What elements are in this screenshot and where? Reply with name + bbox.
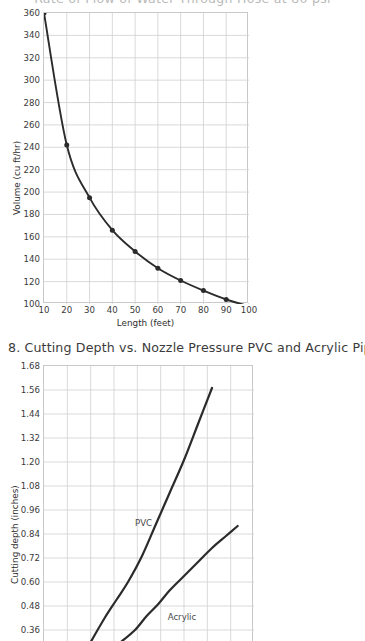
y-tick-label: 360 xyxy=(24,9,40,18)
plot-area-cutting: PVC Acrylic 0.360.480.600.720.840.961.08… xyxy=(43,365,253,641)
y-tick-label: 200 xyxy=(24,188,40,197)
series-label-pvc: PVC xyxy=(135,518,152,528)
y-tick-label: 0.96 xyxy=(21,506,40,515)
y-tick-label: 1.56 xyxy=(21,386,40,395)
y-tick-label: 0.84 xyxy=(21,530,40,539)
y-tick-label: 0.36 xyxy=(21,626,40,635)
series-label-acrylic: Acrylic xyxy=(168,612,197,622)
chart-flow: 1001201401601802002202402602803003203403… xyxy=(0,0,365,332)
plot-area-flow: 1001201401601802002202402602803003203403… xyxy=(43,12,248,303)
y-axis-title-flow: Volume (cu ft/hr) xyxy=(12,141,22,215)
flow-curve-svg xyxy=(44,13,249,304)
x-tick-label: 90 xyxy=(221,306,232,315)
y-tick-label: 280 xyxy=(24,98,40,107)
y-tick-label: 1.08 xyxy=(21,482,40,491)
y-tick-label: 180 xyxy=(24,210,40,219)
y-tick-label: 300 xyxy=(24,76,40,85)
x-tick-label: 70 xyxy=(175,306,186,315)
y-tick-label: 1.68 xyxy=(21,362,40,371)
page-root: Rate of Flow of Water Through Hose at 80… xyxy=(0,0,365,641)
y-tick-label: 0.60 xyxy=(21,578,40,587)
y-tick-label: 140 xyxy=(24,255,40,264)
y-tick-label: 120 xyxy=(24,277,40,286)
y-tick-label: 340 xyxy=(24,31,40,40)
y-tick-label: 240 xyxy=(24,143,40,152)
x-tick-label: 30 xyxy=(84,306,95,315)
y-tick-label: 100 xyxy=(24,300,40,309)
chart-cutting-depth: 8. Cutting Depth vs. Nozzle Pressure PVC… xyxy=(0,336,365,641)
x-tick-label: 10 xyxy=(39,306,50,315)
x-tick-label: 60 xyxy=(152,306,163,315)
x-tick-label: 40 xyxy=(107,306,118,315)
x-tick-label: 80 xyxy=(198,306,209,315)
x-tick-label: 20 xyxy=(61,306,72,315)
y-tick-label: 1.20 xyxy=(21,458,40,467)
y-tick-label: 320 xyxy=(24,53,40,62)
y-tick-label: 160 xyxy=(24,233,40,242)
y-axis-title-cutting: Cutting depth (inches) xyxy=(10,485,20,584)
y-tick-label: 1.44 xyxy=(21,410,40,419)
y-tick-label: 0.72 xyxy=(21,554,40,563)
cutting-curves-svg xyxy=(44,366,254,641)
y-tick-label: 220 xyxy=(24,165,40,174)
x-tick-label: 100 xyxy=(241,306,257,315)
figure-title-cutting: 8. Cutting Depth vs. Nozzle Pressure PVC… xyxy=(8,340,365,355)
x-axis-title-flow: Length (feet) xyxy=(43,318,248,328)
y-tick-label: 1.32 xyxy=(21,434,40,443)
y-tick-label: 0.48 xyxy=(21,602,40,611)
y-tick-label: 260 xyxy=(24,121,40,130)
x-tick-label: 50 xyxy=(130,306,141,315)
